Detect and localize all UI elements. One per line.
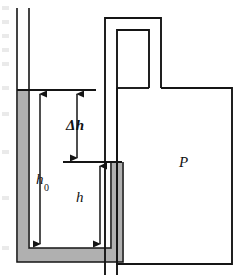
u-tube-outline bbox=[17, 90, 123, 262]
mercury-fill bbox=[18, 90, 122, 262]
label-delta-h: Δh bbox=[66, 118, 84, 133]
diagram-canvas bbox=[0, 0, 239, 275]
label-h: h bbox=[76, 190, 84, 205]
pressure-vessel bbox=[117, 88, 232, 264]
manometer-figure: Δh h0 h P bbox=[0, 0, 239, 275]
label-pressure: P bbox=[179, 155, 188, 170]
label-h-zero-base: h bbox=[36, 171, 44, 187]
label-h-zero: h0 bbox=[36, 172, 49, 190]
label-h-zero-subscript: 0 bbox=[44, 182, 49, 193]
left-capillary-tube bbox=[17, 8, 29, 90]
